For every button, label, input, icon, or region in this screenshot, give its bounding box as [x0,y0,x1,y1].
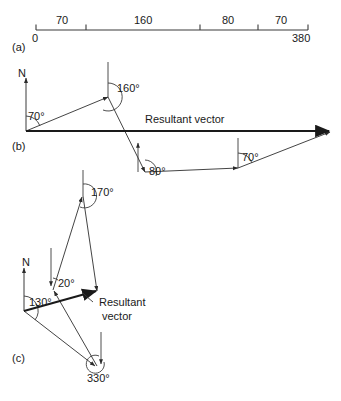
panel-label-c: (c) [12,352,25,364]
panel-label-a: (a) [12,41,25,53]
panel-b-resultant-label: Resultant vector [145,113,224,125]
panel-b-north-label: N [18,67,26,79]
vector-diagram-svg [0,0,341,401]
panel-b-angle-label-160: 160° [117,82,140,94]
panel-c-vector-130 [24,311,95,366]
panel-c-angle-label-330: 330° [87,372,110,384]
scale-bar-group [36,25,308,31]
panel-c-group [24,170,104,373]
panel-c-angle-arc-330 [86,355,104,373]
panel-c-angle-label-130: 130° [29,296,52,308]
scale-segment-label-2: 160 [134,14,152,26]
panel-b-angle-label-80: 80° [149,165,166,177]
scale-segment-label-4: 70 [275,14,287,26]
panel-c-vector-170 [83,196,97,291]
panel-b-angle-label-70b: 70° [242,151,259,163]
scale-start-label: 0 [32,32,38,44]
panel-c-angle-label-170: 170° [91,186,114,198]
panel-b-vector-2 [108,97,145,172]
panel-c-angle-label-20: 20° [58,277,75,289]
panel-label-b: (b) [12,140,25,152]
scale-segment-label-1: 70 [56,14,68,26]
panel-c-resultant-label-line2: vector [102,310,132,322]
scale-segment-label-3: 80 [222,14,234,26]
panel-c-resultant-label-line1: Resultant [99,296,145,308]
panel-b-angle-label-70a: 70° [28,110,45,122]
figure-canvas: 70 160 80 70 0 380 (a) N 70° 160° 80° 70… [0,0,341,401]
panel-c-vector-330 [54,291,97,366]
scale-end-label: 380 [292,32,310,44]
panel-c-north-label: N [22,256,30,268]
